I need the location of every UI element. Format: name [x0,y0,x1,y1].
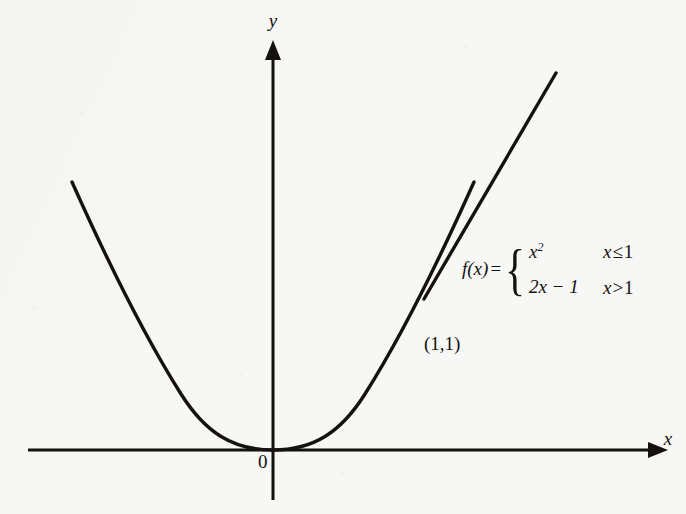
equation-lhs: f(x) [462,258,489,280]
case-condition-value: 1 [624,277,634,298]
equation-equals-sign: = [489,258,504,280]
case-condition-quadratic: x≤1 [603,241,633,263]
equation-case-row: x2 x≤1 [529,240,634,263]
case-expression-quadratic: x2 [529,240,603,263]
equation-cases: x2 x≤1 2x − 1 x>1 [527,240,634,299]
equation-brace: { [505,246,525,294]
x-axis-label: x [664,428,672,450]
case-condition-operator: ≤ [611,241,623,262]
case-condition-operator: > [611,277,624,298]
piecewise-equation: f(x) = { x2 x≤1 2x − 1 x>1 [462,240,634,299]
case-condition-linear: x>1 [603,277,634,299]
piecewise-function-figure: y x 0 (1,1) f(x) = { x2 x≤1 2x − 1 x>1 [0,0,686,514]
origin-label: 0 [258,451,268,473]
y-axis-label: y [269,10,277,32]
case-expression-base: 2x − 1 [529,277,579,298]
y-axis-arrowhead [265,40,281,60]
case-condition-value: 1 [624,241,634,262]
case-expression-exponent: 2 [537,240,543,254]
equation-case-row: 2x − 1 x>1 [529,275,634,298]
point-label-1-1: (1,1) [424,333,460,355]
case-expression-linear: 2x − 1 [529,275,603,298]
